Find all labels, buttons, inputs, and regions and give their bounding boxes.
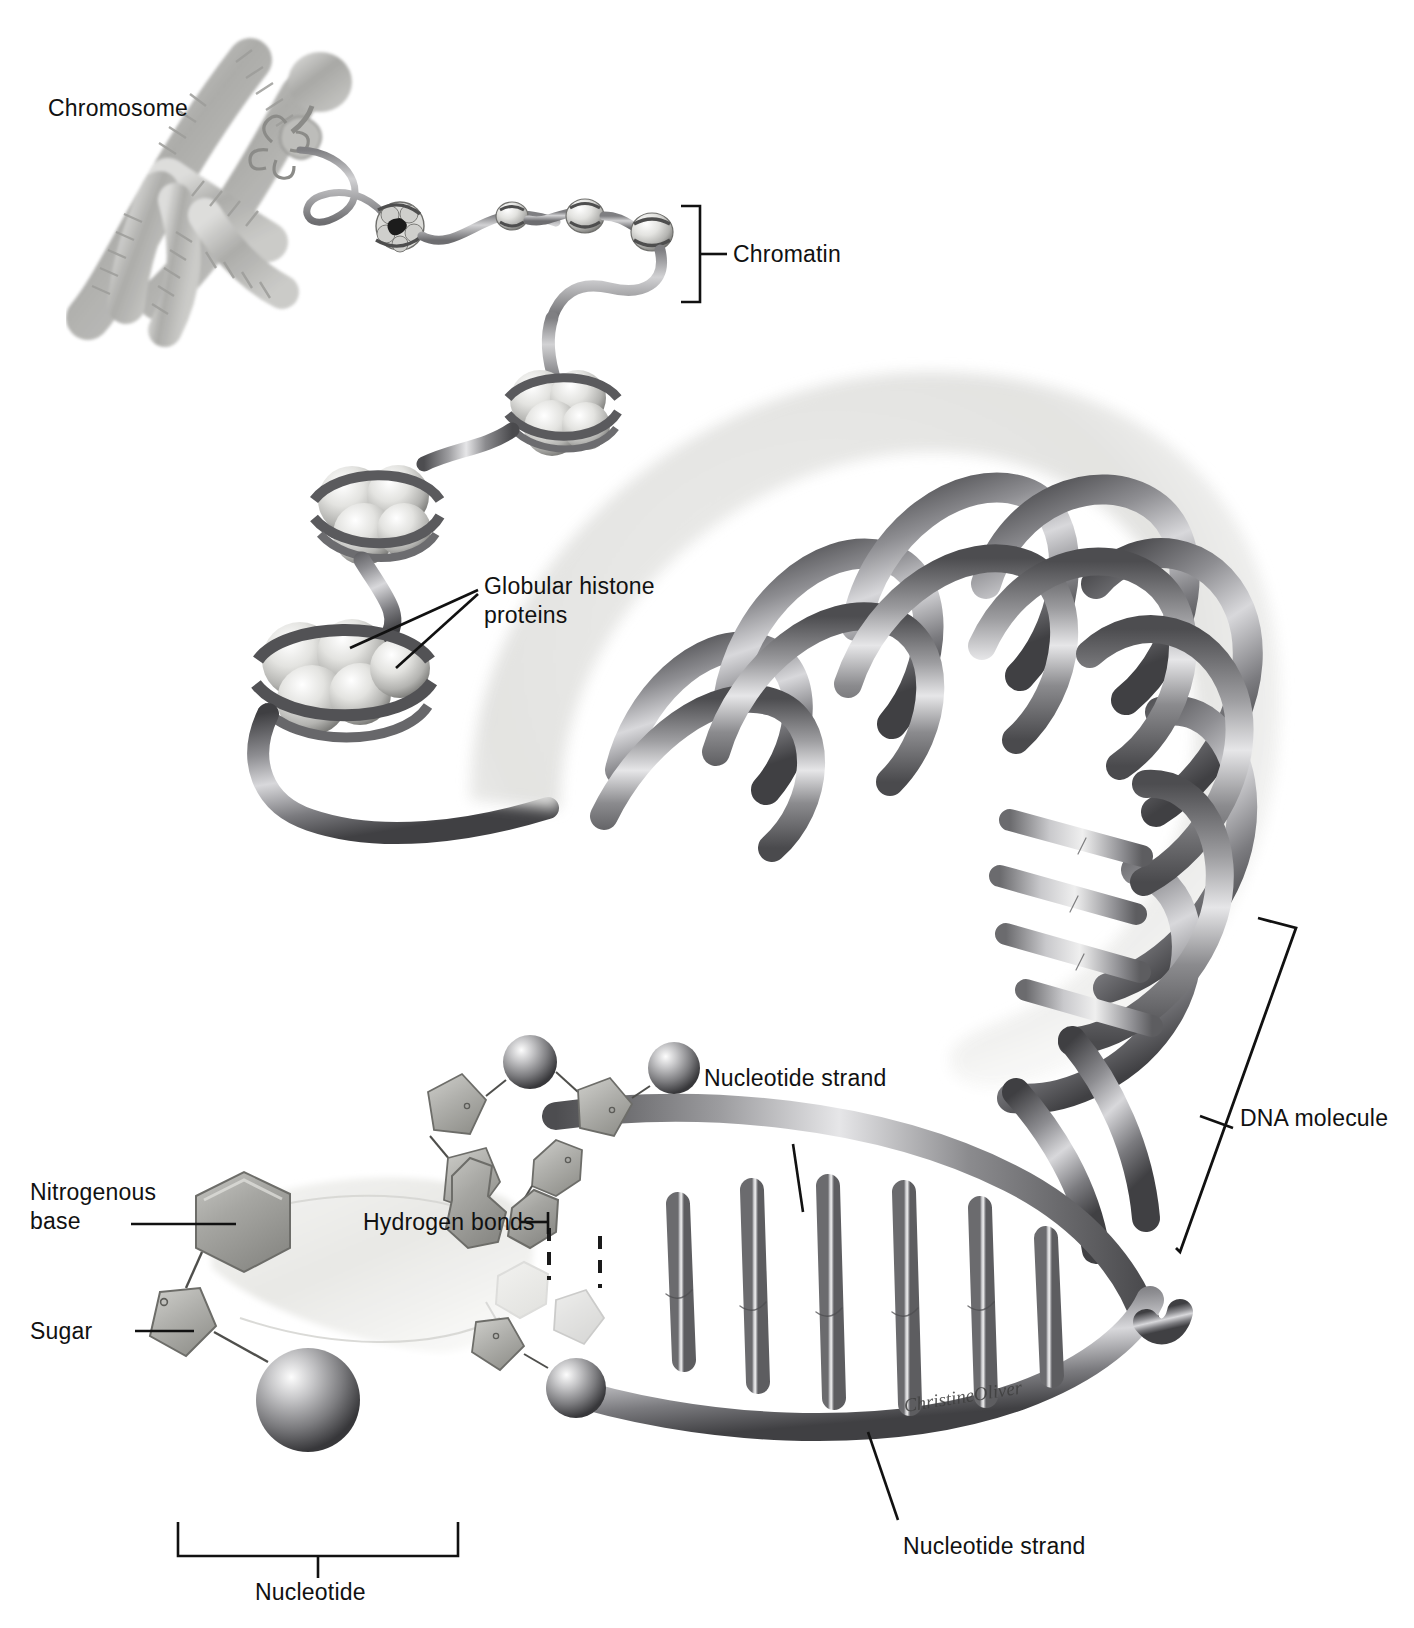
label-nitrogenous-base-line2: base	[30, 1207, 81, 1236]
label-nucleotide-strand-lower: Nucleotide strand	[903, 1532, 1085, 1560]
phosphate-shape	[256, 1348, 360, 1452]
label-hydrogen-bonds: Hydrogen bonds	[363, 1208, 535, 1236]
nucleosome-large-1	[508, 370, 618, 456]
label-chromosome: Chromosome	[48, 94, 188, 122]
phosphate-shape-lower	[546, 1358, 606, 1418]
label-globular-histone-proteins-line2: proteins	[484, 601, 567, 630]
chromatin-bracket	[681, 206, 727, 302]
label-dna-molecule: DNA molecule	[1240, 1104, 1388, 1132]
nucleotide-strand-upper-leader	[793, 1144, 803, 1212]
chromosome-illustration	[88, 50, 352, 330]
label-chromatin: Chromatin	[733, 240, 841, 268]
nucleosome-small-1	[376, 202, 424, 252]
chromatin-fiber	[300, 150, 673, 384]
label-nitrogenous-base-line1: Nitrogenous	[30, 1178, 156, 1207]
label-sugar: Sugar	[30, 1317, 92, 1345]
nucleosome-small-4	[631, 213, 673, 251]
diagram-artwork: ChristineOliver	[0, 0, 1414, 1628]
nucleosome-large-2	[314, 465, 440, 565]
nucleotide-strand-lower-leader	[868, 1432, 898, 1520]
sugar-shape	[150, 1288, 216, 1356]
label-nucleotide: Nucleotide	[255, 1578, 366, 1606]
nucleosome-large-3	[256, 619, 432, 738]
nucleosome-small-3	[566, 199, 604, 233]
dna-packaging-diagram: ChristineOliver	[0, 0, 1414, 1628]
linker-dna	[300, 150, 386, 222]
nucleosome-small-2	[496, 202, 528, 230]
linker-dna-2	[424, 430, 512, 464]
dna-double-helix-lower: ChristineOliver	[556, 820, 1180, 1427]
label-nucleotide-strand-upper: Nucleotide strand	[704, 1064, 886, 1092]
label-globular-histone-proteins-line1: Globular histone	[484, 572, 655, 601]
nucleotide-bracket	[178, 1522, 458, 1578]
base-pair-rungs-lower	[666, 1186, 1052, 1404]
hydrogen-bond-dashes	[549, 1228, 600, 1288]
